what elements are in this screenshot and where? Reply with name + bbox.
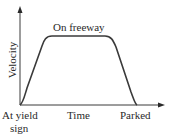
start-label-line1: At yield [2,109,38,121]
plateau-label: On freeway [53,21,105,33]
y-axis-label: Velocity [6,42,18,79]
x-axis-arrow-icon [158,103,165,108]
end-label: Parked [120,109,151,121]
velocity-curve [20,36,137,105]
start-label-line2: sign [10,122,28,134]
y-axis-arrow-icon [18,6,23,13]
x-axis-label: Time [67,109,90,121]
